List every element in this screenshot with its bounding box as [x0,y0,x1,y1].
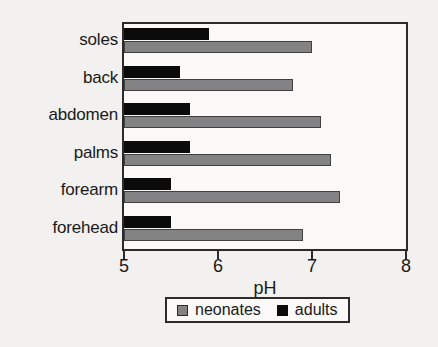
black-square-swatch [277,305,288,316]
bar-adults [124,178,171,190]
y-axis-label: soles [2,30,118,50]
bar-group [124,178,406,204]
bar-adults [124,141,190,153]
y-axis-label: back [2,68,118,88]
y-axis-category-labels: solesbackabdomenpalmsforearmforehead [0,22,118,251]
bar-adults [124,216,171,228]
y-axis-label: palms [2,143,118,163]
legend-entry: neonates [177,301,261,319]
plot-area [122,22,408,251]
bar-group [124,141,406,167]
y-axis-label: abdomen [2,105,118,125]
bars-container [124,24,406,249]
chart-figure: solesbackabdomenpalmsforearmforehead 567… [0,0,438,347]
bar-neonates [124,79,293,91]
bar-group [124,216,406,242]
bar-neonates [124,41,312,53]
bar-group [124,103,406,129]
bar-group [124,66,406,92]
bar-neonates [124,154,331,166]
x-axis-tick-label: 7 [307,256,317,277]
y-axis-label: forearm [2,180,118,200]
chart-legend: neonatesadults [165,297,350,323]
x-axis-title: pH [122,278,408,299]
legend-entry: adults [277,301,338,319]
bar-adults [124,66,180,78]
x-axis-tick-label: 5 [119,256,129,277]
bar-neonates [124,116,321,128]
bar-adults [124,28,209,40]
bar-neonates [124,191,340,203]
bar-neonates [124,229,303,241]
legend-label: neonates [195,301,261,319]
x-axis-tick-label: 8 [401,256,411,277]
bar-adults [124,103,190,115]
bar-group [124,28,406,54]
gray-square-swatch [177,305,188,316]
y-axis-label: forehead [2,218,118,238]
x-axis-tick-labels: 5678 [122,256,408,280]
legend-label: adults [295,301,338,319]
x-axis-tick-label: 6 [213,256,223,277]
